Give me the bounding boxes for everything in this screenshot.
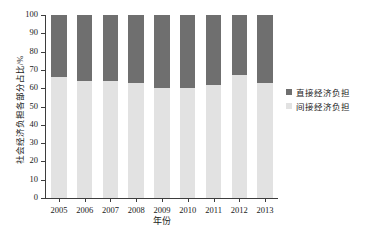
plot-area: 0102030405060708090100 20052006200720082… bbox=[46, 15, 278, 198]
bar-2006[interactable] bbox=[77, 15, 92, 198]
bar-segment[interactable] bbox=[206, 15, 221, 85]
y-tick-label: 80 bbox=[30, 46, 39, 56]
bar-segment[interactable] bbox=[77, 81, 92, 198]
bar-2008[interactable] bbox=[128, 15, 143, 198]
bar-2011[interactable] bbox=[206, 15, 221, 198]
x-tick bbox=[265, 198, 266, 202]
bar-segment[interactable] bbox=[206, 85, 221, 198]
y-tick-label: 70 bbox=[30, 64, 39, 74]
stacked-bar-chart: 社会经济负担各部分占比/% 0102030405060708090100 200… bbox=[0, 0, 378, 243]
bar-2010[interactable] bbox=[180, 15, 195, 198]
y-tick: 60 bbox=[41, 88, 46, 89]
bar-segment[interactable] bbox=[180, 88, 195, 198]
legend-swatch-icon bbox=[286, 89, 292, 95]
bar-segment[interactable] bbox=[128, 15, 143, 83]
bar-segment[interactable] bbox=[51, 77, 66, 198]
bar-segment[interactable] bbox=[257, 83, 272, 198]
bar-segment[interactable] bbox=[232, 75, 247, 198]
y-tick: 80 bbox=[41, 52, 46, 53]
y-tick-label: 50 bbox=[30, 101, 39, 111]
legend-item-0[interactable]: 直接经济负担 bbox=[286, 86, 376, 98]
legend-item-1[interactable]: 间接经济负担 bbox=[286, 100, 376, 112]
y-tick: 10 bbox=[41, 180, 46, 181]
y-tick-label: 0 bbox=[34, 192, 38, 202]
x-tick bbox=[162, 198, 163, 202]
bar-2009[interactable] bbox=[154, 15, 169, 198]
bar-segment[interactable] bbox=[154, 15, 169, 88]
y-tick: 70 bbox=[41, 70, 46, 71]
x-tick bbox=[136, 198, 137, 202]
legend-label: 直接经济负担 bbox=[296, 86, 350, 98]
bar-segment[interactable] bbox=[51, 15, 66, 77]
y-tick: 40 bbox=[41, 125, 46, 126]
y-tick: 90 bbox=[41, 33, 46, 34]
bar-2012[interactable] bbox=[232, 15, 247, 198]
y-tick-label: 20 bbox=[30, 155, 39, 165]
legend-label: 间接经济负担 bbox=[296, 100, 350, 112]
y-tick-label: 10 bbox=[30, 174, 39, 184]
y-tick-label: 60 bbox=[30, 82, 39, 92]
bar-2005[interactable] bbox=[51, 15, 66, 198]
bar-segment[interactable] bbox=[77, 15, 92, 81]
bar-segment[interactable] bbox=[232, 15, 247, 75]
y-tick: 50 bbox=[41, 107, 46, 108]
y-tick-label: 90 bbox=[30, 27, 39, 37]
bar-segment[interactable] bbox=[180, 15, 195, 88]
x-tick bbox=[188, 198, 189, 202]
bar-segment[interactable] bbox=[103, 81, 118, 198]
bar-segment[interactable] bbox=[257, 15, 272, 83]
x-tick bbox=[85, 198, 86, 202]
legend-swatch-icon bbox=[286, 103, 292, 109]
bar-segment[interactable] bbox=[103, 15, 118, 81]
y-tick: 30 bbox=[41, 143, 46, 144]
x-tick bbox=[214, 198, 215, 202]
y-tick-label: 40 bbox=[30, 119, 39, 129]
bar-segment[interactable] bbox=[128, 83, 143, 198]
y-tick-label: 30 bbox=[30, 137, 39, 147]
x-tick bbox=[110, 198, 111, 202]
chart-legend: 直接经济负担间接经济负担 bbox=[286, 86, 376, 114]
y-axis-title: 社会经济负担各部分占比/% bbox=[13, 20, 25, 200]
y-tick: 20 bbox=[41, 161, 46, 162]
x-tick bbox=[239, 198, 240, 202]
x-tick bbox=[59, 198, 60, 202]
y-tick: 0 bbox=[41, 198, 46, 199]
y-tick: 100 bbox=[41, 15, 46, 16]
bar-2007[interactable] bbox=[103, 15, 118, 198]
bar-2013[interactable] bbox=[257, 15, 272, 198]
bar-segment[interactable] bbox=[154, 88, 169, 198]
y-tick-label: 100 bbox=[25, 9, 38, 19]
x-axis-title: 年份 bbox=[46, 214, 278, 227]
